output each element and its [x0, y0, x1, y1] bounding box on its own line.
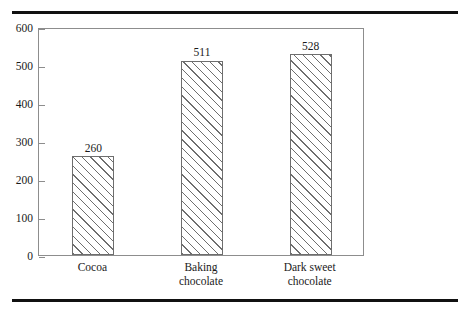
x-category-label: Bakingchocolate: [179, 260, 223, 288]
x-category-label-line: Cocoa: [78, 260, 107, 274]
bar: 528: [290, 54, 332, 255]
y-tick-label: 300: [16, 137, 33, 149]
y-tick-mark: [39, 181, 45, 182]
bar-value-label: 260: [85, 143, 102, 155]
plot-area: 0100200300400500600 260511528: [38, 28, 364, 256]
figure-bottom-rule: [12, 299, 458, 302]
y-tick-label: 600: [16, 23, 33, 35]
y-tick-label: 100: [16, 213, 33, 225]
x-category-label-line: Baking: [179, 260, 223, 274]
y-tick-mark: [39, 257, 45, 258]
x-category-label: Dark sweetchocolate: [284, 260, 336, 288]
y-tick-mark: [39, 143, 45, 144]
y-tick-mark: [39, 105, 45, 106]
y-tick-label: 0: [27, 251, 33, 263]
bar: 511: [181, 61, 223, 255]
bar-value-label: 511: [194, 47, 211, 59]
y-tick-label: 500: [16, 61, 33, 73]
bar: 260: [72, 156, 114, 255]
x-category-label-line: Dark sweet: [284, 260, 336, 274]
y-tick-mark: [39, 29, 45, 30]
y-tick-mark: [39, 67, 45, 68]
y-tick-mark: [39, 219, 45, 220]
bar-value-label: 528: [302, 41, 319, 53]
y-tick-label: 200: [16, 175, 33, 187]
x-category-label-line: chocolate: [284, 274, 336, 288]
figure-top-rule: [12, 11, 458, 14]
x-category-label: Cocoa: [78, 260, 107, 274]
x-category-label-line: chocolate: [179, 274, 223, 288]
y-tick-label: 400: [16, 99, 33, 111]
